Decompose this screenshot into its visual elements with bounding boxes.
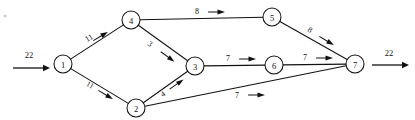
sink-flow-arrow: 22 (372, 48, 409, 68)
node-1[interactable]: 1 (54, 55, 72, 73)
edge-2-to-3 (143, 71, 187, 103)
edge-label-6-7: 7 (303, 53, 307, 62)
nodes-group: 1234567 (54, 8, 364, 117)
edge-label-5-7: 8 (306, 25, 314, 35)
network-svg-canvas: 2222 11113488777 1234567 (0, 0, 415, 120)
source-flow-arrow: 22 (13, 50, 50, 71)
node-label-7: 7 (353, 60, 357, 70)
node-7[interactable]: 7 (346, 55, 364, 73)
edge-label-2-3: 4 (159, 89, 167, 99)
edge-4-to-5 (140, 17, 263, 20)
sink-flow-arrow-value: 22 (385, 48, 394, 58)
node-label-6: 6 (272, 61, 276, 71)
node-5[interactable]: 5 (263, 8, 281, 26)
node-label-3: 3 (193, 62, 197, 72)
edge-lines-group (71, 17, 348, 106)
edge-3-to-6 (204, 65, 265, 66)
edge-1-to-2 (71, 69, 129, 104)
scan-artifact-speck (3, 14, 6, 17)
edge-6-to-7 (283, 64, 346, 65)
edge-4-to-3 (138, 25, 187, 61)
arrow-head-icon-5-7 (318, 34, 335, 47)
node-3[interactable]: 3 (186, 57, 204, 75)
arrow-head-icon-6-7 (317, 56, 334, 61)
edge-label-3-6: 7 (226, 54, 230, 63)
node-label-2: 2 (134, 104, 138, 114)
edge-label-4-3: 3 (146, 39, 155, 49)
node-4[interactable]: 4 (122, 11, 140, 29)
arrow-head-icon-2-7 (249, 93, 266, 98)
network-flow-diagram: 2222 11113488777 1234567 (0, 0, 415, 120)
edge-label-1-4: 11 (83, 32, 94, 44)
arrow-head-icon-4-3 (160, 50, 176, 64)
node-2[interactable]: 2 (127, 99, 145, 117)
arrow-head-icon-3-6 (240, 57, 257, 62)
node-label-5: 5 (270, 13, 274, 23)
source-flow-arrow-value: 22 (25, 50, 34, 60)
node-6[interactable]: 6 (265, 56, 283, 74)
edge-label-4-5: 8 (195, 7, 199, 16)
edge-label-2-7: 7 (235, 91, 239, 100)
edge-label-1-2: 11 (84, 79, 95, 91)
arrow-head-icon-4-5 (209, 10, 226, 15)
edge-1-to-4 (71, 25, 124, 59)
node-label-1: 1 (61, 60, 65, 70)
